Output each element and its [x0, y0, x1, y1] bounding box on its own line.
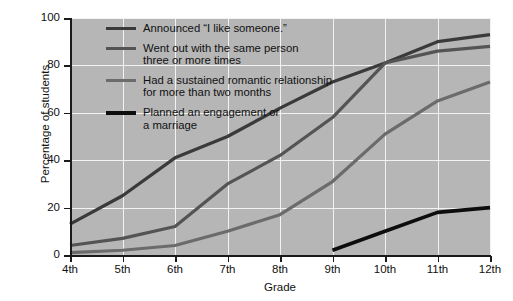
legend-swatch-line-icon [106, 27, 136, 30]
x-axis-tick [385, 256, 387, 262]
y-axis-tick [64, 65, 70, 67]
x-axis-tick-label: 9th [310, 264, 356, 276]
legend-item-label: Went out with the same person three or m… [143, 42, 299, 67]
line-chart: 020406080100 4th5th6th7th8th9th10th11th1… [0, 0, 513, 301]
x-axis-tick-label: 12th [467, 264, 513, 276]
x-axis-tick-label: 7th [205, 264, 251, 276]
x-axis-tick-label: 10th [362, 264, 408, 276]
x-axis-tick [175, 256, 177, 262]
x-axis-tick-label: 6th [152, 264, 198, 276]
chart-legend: Announced “I like someone.”Went out with… [106, 22, 336, 138]
x-axis-tick [333, 256, 335, 262]
y-axis-tick [64, 160, 70, 162]
x-axis-tick [280, 256, 282, 262]
legend-swatch-line-icon [106, 47, 136, 50]
x-axis-tick [228, 256, 230, 262]
x-axis-tick-label: 11th [415, 264, 461, 276]
y-axis-tick [64, 208, 70, 210]
legend-item-label: Had a sustained romantic relationship fo… [143, 74, 332, 99]
legend-item-label: Announced “I like someone.” [143, 22, 287, 35]
x-axis-tick-label: 4th [47, 264, 93, 276]
x-axis-tick [490, 256, 492, 262]
legend-swatch-line-icon [106, 111, 136, 115]
y-axis-title: Percentage of students [39, 9, 51, 239]
x-axis-title: Grade [70, 281, 490, 293]
y-axis-line [70, 18, 72, 256]
gridline-vertical [490, 18, 491, 255]
series-line-4 [333, 208, 491, 251]
y-axis-tick-label: 0 [26, 249, 60, 261]
legend-item[interactable]: Announced “I like someone.” [106, 22, 336, 35]
x-axis-tick-label: 5th [100, 264, 146, 276]
legend-item[interactable]: Had a sustained romantic relationship fo… [106, 74, 336, 99]
legend-item[interactable]: Went out with the same person three or m… [106, 42, 336, 67]
y-axis-tick [64, 113, 70, 115]
x-axis-tick-label: 8th [257, 264, 303, 276]
y-axis-tick [64, 18, 70, 20]
x-axis-tick [438, 256, 440, 262]
x-axis-tick [123, 256, 125, 262]
legend-item-label: Planned an engagement or a marriage [143, 106, 279, 131]
legend-item[interactable]: Planned an engagement or a marriage [106, 106, 336, 131]
x-axis-tick [70, 256, 72, 262]
legend-swatch-line-icon [106, 79, 136, 82]
